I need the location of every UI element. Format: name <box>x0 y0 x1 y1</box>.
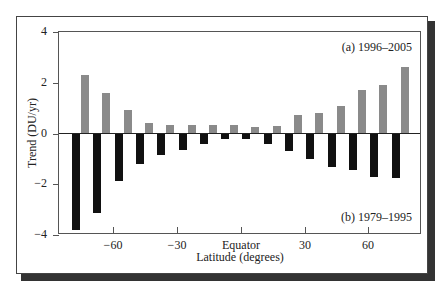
bar-1996-2005 <box>209 125 217 134</box>
x-tick-label: −60 <box>104 238 123 253</box>
bar-1979-1995 <box>157 134 165 156</box>
bar-1979-1995 <box>200 134 208 145</box>
bar-1979-1995 <box>136 134 144 164</box>
bar-1979-1995 <box>115 134 123 182</box>
x-tick-label: 60 <box>362 238 374 253</box>
x-tick <box>241 227 242 233</box>
x-axis-title: Latitude (degrees) <box>196 250 284 265</box>
bar-1979-1995 <box>242 134 250 139</box>
legend-label-b: (b) 1979–1995 <box>341 210 412 225</box>
bar-1996-2005 <box>230 125 238 134</box>
y-tick-label: 0 <box>27 126 47 141</box>
bar-1996-2005 <box>166 125 174 134</box>
bar-1996-2005 <box>358 90 366 134</box>
bar-1996-2005 <box>401 67 409 134</box>
bar-1996-2005 <box>315 113 323 134</box>
y-tick <box>53 235 59 236</box>
bar-1996-2005 <box>337 106 345 134</box>
x-tick <box>305 227 306 233</box>
y-tick-label: 4 <box>27 24 47 39</box>
y-tick-label: 2 <box>27 75 47 90</box>
bar-1996-2005 <box>251 127 259 134</box>
bar-1996-2005 <box>124 110 132 134</box>
y-tick <box>53 32 59 33</box>
bar-1979-1995 <box>349 134 357 171</box>
y-tick <box>53 134 59 135</box>
x-tick <box>177 227 178 233</box>
bar-1996-2005 <box>294 115 302 133</box>
x-tick-label: −30 <box>168 238 187 253</box>
bar-1979-1995 <box>328 134 336 168</box>
bar-1979-1995 <box>93 134 101 214</box>
x-tick <box>368 227 369 233</box>
bar-1979-1995 <box>285 134 293 151</box>
bar-1996-2005 <box>379 85 387 134</box>
y-tick <box>53 184 59 185</box>
y-tick-label: −4 <box>27 227 47 242</box>
bar-1996-2005 <box>81 75 89 134</box>
bar-1996-2005 <box>273 126 281 134</box>
bar-1979-1995 <box>370 134 378 178</box>
bar-1979-1995 <box>264 134 272 145</box>
bar-1979-1995 <box>221 134 229 139</box>
bar-1996-2005 <box>102 93 110 133</box>
bar-1979-1995 <box>72 134 80 231</box>
bar-1996-2005 <box>145 123 153 134</box>
bar-1979-1995 <box>179 134 187 150</box>
y-tick <box>53 83 59 84</box>
legend-label-a: (a) 1996–2005 <box>342 40 412 55</box>
bar-1996-2005 <box>188 125 196 134</box>
plot-area: (a) 1996–2005 (b) 1979–1995 420−2−4−60−3… <box>58 31 421 234</box>
y-tick-label: −2 <box>27 176 47 191</box>
bar-1979-1995 <box>392 134 400 179</box>
x-tick <box>113 227 114 233</box>
x-tick-label: 30 <box>299 238 311 253</box>
bar-1979-1995 <box>306 134 314 159</box>
